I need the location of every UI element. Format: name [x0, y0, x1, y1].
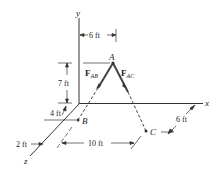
point-b-dot	[77, 119, 80, 122]
force-ac-label: FAC	[121, 68, 135, 79]
force-diagram: y x z A B C FAB FAC 6 ft 7 ft	[0, 0, 216, 178]
z-axis-label: z	[23, 156, 28, 166]
dimension-height-7ft-label: 7 ft	[58, 79, 70, 88]
dimension-span-10ft-label: 10 ft	[88, 139, 104, 148]
member-ab	[78, 63, 113, 120]
point-a-label: A	[108, 52, 115, 62]
dimension-depth-2ft	[31, 127, 72, 148]
point-c-label: C	[150, 127, 157, 137]
dimension-right-6ft-label: 6 ft	[176, 115, 188, 124]
point-c-dot	[145, 130, 148, 133]
dimension-depth-2ft-label: 2 ft	[16, 140, 28, 149]
axes	[30, 18, 203, 156]
dimension-top-6ft-label: 6 ft	[89, 31, 101, 40]
dimension-depth-4ft-label: 4 ft	[50, 109, 62, 118]
point-b-label: B	[82, 116, 88, 126]
x-axis-label: x	[204, 98, 209, 108]
force-ab-label: FAB	[85, 68, 98, 79]
y-axis-label: y	[75, 8, 80, 18]
